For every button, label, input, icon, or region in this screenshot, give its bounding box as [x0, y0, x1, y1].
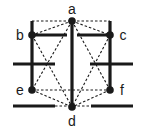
node-label-d: d — [68, 113, 76, 129]
node-label-e: e — [16, 82, 24, 98]
node-e — [28, 86, 36, 94]
node-a — [68, 17, 76, 25]
dashed-edge — [32, 35, 72, 107]
node-label-b: b — [16, 27, 24, 43]
dashed-edge — [32, 21, 72, 35]
node-label-c: c — [120, 27, 127, 43]
node-d — [68, 103, 76, 111]
node-label-a: a — [68, 1, 76, 17]
graph-diagram: abcefd — [0, 0, 143, 138]
node-label-f: f — [120, 82, 124, 98]
node-f — [106, 86, 114, 94]
dashed-edge — [72, 35, 110, 107]
dashed-edge — [72, 21, 110, 35]
dashed-edge — [32, 21, 72, 90]
node-c — [106, 31, 114, 39]
node-b — [28, 31, 36, 39]
dashed-edge — [72, 21, 110, 90]
